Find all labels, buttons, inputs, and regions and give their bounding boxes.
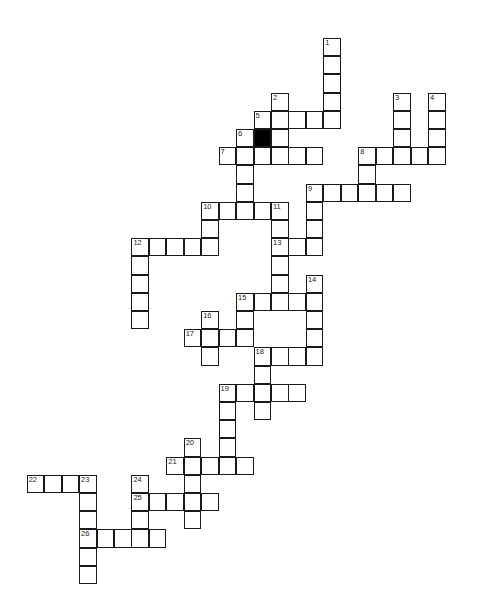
crossword-cell[interactable] [288, 111, 306, 129]
crossword-cell[interactable] [219, 438, 237, 456]
crossword-cell[interactable] [254, 384, 272, 402]
crossword-cell[interactable] [131, 256, 149, 274]
crossword-cell[interactable] [149, 238, 167, 256]
crossword-cell[interactable] [428, 129, 446, 147]
crossword-cell[interactable] [236, 457, 254, 475]
crossword-cell[interactable] [288, 293, 306, 311]
crossword-cell[interactable] [236, 165, 254, 183]
crossword-cell[interactable]: 23 [79, 475, 97, 493]
crossword-cell[interactable] [323, 56, 341, 74]
crossword-cell[interactable] [79, 511, 97, 529]
crossword-cell[interactable]: 4 [428, 93, 446, 111]
crossword-cell[interactable]: 8 [358, 147, 376, 165]
crossword-cell[interactable] [288, 147, 306, 165]
crossword-cell[interactable] [79, 566, 97, 584]
crossword-cell[interactable] [288, 347, 306, 365]
crossword-cell[interactable] [254, 366, 272, 384]
crossword-cell[interactable]: 19 [219, 384, 237, 402]
crossword-cell[interactable] [62, 475, 80, 493]
crossword-cell[interactable] [306, 329, 324, 347]
crossword-cell[interactable] [149, 493, 167, 511]
crossword-cell[interactable] [254, 293, 272, 311]
crossword-cell[interactable] [271, 111, 289, 129]
crossword-cell[interactable] [358, 184, 376, 202]
crossword-cell[interactable] [271, 256, 289, 274]
crossword-cell[interactable] [271, 275, 289, 293]
crossword-cell[interactable]: 22 [27, 475, 45, 493]
crossword-cell[interactable] [341, 184, 359, 202]
crossword-cell[interactable] [288, 238, 306, 256]
crossword-cell[interactable] [393, 129, 411, 147]
crossword-cell[interactable] [79, 493, 97, 511]
crossword-cell[interactable]: 7 [219, 147, 237, 165]
crossword-cell[interactable] [254, 202, 272, 220]
crossword-cell[interactable] [131, 529, 149, 547]
crossword-cell[interactable] [201, 347, 219, 365]
crossword-cell[interactable] [376, 147, 394, 165]
crossword-cell[interactable]: 2 [271, 93, 289, 111]
crossword-cell[interactable]: 5 [254, 111, 272, 129]
crossword-cell[interactable] [271, 384, 289, 402]
crossword-cell[interactable] [79, 548, 97, 566]
crossword-cell[interactable]: 24 [131, 475, 149, 493]
crossword-cell[interactable] [114, 529, 132, 547]
crossword-cell[interactable]: 6 [236, 129, 254, 147]
crossword-cell[interactable] [201, 220, 219, 238]
crossword-cell[interactable] [219, 329, 237, 347]
crossword-cell[interactable]: 25 [131, 493, 149, 511]
crossword-cell[interactable] [323, 93, 341, 111]
crossword-cell[interactable] [184, 493, 202, 511]
crossword-cell[interactable]: 14 [306, 275, 324, 293]
crossword-cell[interactable] [236, 202, 254, 220]
crossword-cell[interactable] [271, 220, 289, 238]
crossword-cell[interactable] [376, 184, 394, 202]
crossword-cell[interactable]: 11 [271, 202, 289, 220]
crossword-cell[interactable] [271, 347, 289, 365]
crossword-cell[interactable] [236, 184, 254, 202]
crossword-cell[interactable] [306, 220, 324, 238]
crossword-cell[interactable] [184, 238, 202, 256]
crossword-cell[interactable]: 26 [79, 529, 97, 547]
crossword-cell[interactable] [254, 402, 272, 420]
crossword-cell[interactable] [306, 347, 324, 365]
crossword-cell[interactable] [288, 384, 306, 402]
crossword-cell[interactable] [306, 111, 324, 129]
crossword-cell[interactable]: 3 [393, 93, 411, 111]
crossword-cell[interactable]: 20 [184, 438, 202, 456]
crossword-cell[interactable] [184, 475, 202, 493]
crossword-cell[interactable]: 21 [166, 457, 184, 475]
crossword-cell[interactable]: 13 [271, 238, 289, 256]
crossword-cell[interactable]: 9 [306, 184, 324, 202]
crossword-cell[interactable] [393, 184, 411, 202]
crossword-cell[interactable] [393, 147, 411, 165]
crossword-cell[interactable] [236, 311, 254, 329]
crossword-cell[interactable] [131, 293, 149, 311]
crossword-cell[interactable] [149, 529, 167, 547]
crossword-cell[interactable] [166, 238, 184, 256]
crossword-cell[interactable] [44, 475, 62, 493]
crossword-cell[interactable]: 12 [131, 238, 149, 256]
crossword-cell[interactable] [219, 402, 237, 420]
crossword-cell[interactable] [306, 293, 324, 311]
crossword-cell[interactable] [219, 420, 237, 438]
crossword-cell[interactable] [323, 111, 341, 129]
crossword-cell[interactable] [131, 311, 149, 329]
crossword-cell[interactable] [411, 147, 429, 165]
crossword-cell[interactable]: 1 [323, 38, 341, 56]
crossword-cell[interactable] [184, 457, 202, 475]
crossword-cell[interactable] [323, 74, 341, 92]
crossword-cell[interactable]: 15 [236, 293, 254, 311]
crossword-cell[interactable] [428, 111, 446, 129]
crossword-cell[interactable] [306, 238, 324, 256]
crossword-cell[interactable] [166, 493, 184, 511]
crossword-cell[interactable] [393, 111, 411, 129]
crossword-cell[interactable] [131, 511, 149, 529]
crossword-cell[interactable] [131, 275, 149, 293]
crossword-cell[interactable] [201, 457, 219, 475]
crossword-cell[interactable] [201, 238, 219, 256]
crossword-cell[interactable] [201, 329, 219, 347]
crossword-cell[interactable] [236, 147, 254, 165]
crossword-cell[interactable]: 17 [184, 329, 202, 347]
crossword-cell[interactable] [184, 511, 202, 529]
crossword-cell[interactable] [306, 147, 324, 165]
